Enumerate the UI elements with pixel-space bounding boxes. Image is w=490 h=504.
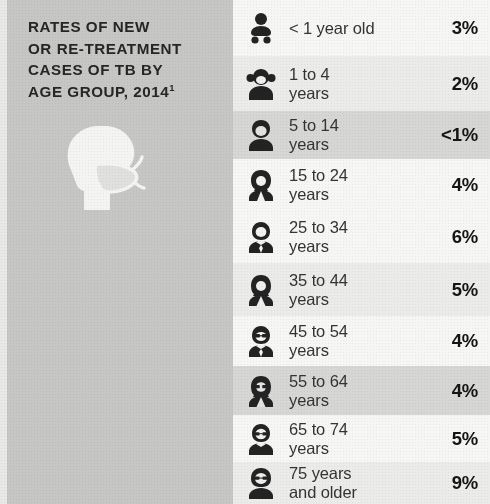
child-icon [240,115,282,155]
tb-age-group-infographic: RATES OF NEW OR RE-TREATMENT CASES OF TB… [0,0,490,504]
row-value: 4% [426,380,478,402]
table-row: < 1 year old 3% [233,0,490,56]
elderly-person-icon [240,463,282,503]
table-row: 55 to 64 years 4% [233,366,490,415]
page-title-line-3: CASES OF TB BY [28,61,163,78]
row-value: 2% [426,73,478,95]
row-label: 75 years and older [282,464,426,501]
row-label: 15 to 24 years [282,166,426,203]
row-label: < 1 year old [282,19,426,38]
man-suit-tie-icon [240,217,282,257]
man-glasses-icon [240,321,282,361]
teen-girl-icon [240,165,282,205]
table-row: 15 to 24 years 4% [233,159,490,211]
page-title: RATES OF NEW OR RE-TREATMENT CASES OF TB… [28,16,224,102]
table-row: 5 to 14 years <1% [233,111,490,159]
table-row: 35 to 44 years 5% [233,263,490,316]
row-value: 4% [426,174,478,196]
table-row: 25 to 34 years 6% [233,211,490,263]
table-row: 65 to 74 years 5% [233,415,490,462]
row-value: <1% [426,124,478,146]
table-row: 75 years and older 9% [233,462,490,504]
table-row: 1 to 4 years 2% [233,56,490,111]
table-row: 45 to 54 years 4% [233,316,490,366]
row-label: 45 to 54 years [282,322,426,359]
row-label: 35 to 44 years [282,271,426,308]
row-value: 4% [426,330,478,352]
left-edge-strip [0,0,7,504]
age-group-table: < 1 year old 3% 1 to 4 years 2% [233,0,490,504]
row-label: 1 to 4 years [282,65,426,102]
girl-pigtails-icon [240,64,282,104]
page-title-line-4: AGE GROUP, 2014 [28,83,169,100]
woman-older-icon [240,371,282,411]
row-label: 5 to 14 years [282,116,426,153]
page-title-line-1: RATES OF NEW [28,18,150,35]
row-label: 65 to 74 years [282,420,426,457]
row-value: 9% [426,472,478,494]
woman-icon [240,270,282,310]
page-title-line-2: OR RE-TREATMENT [28,40,182,57]
row-value: 5% [426,279,478,301]
row-value: 3% [426,17,478,39]
row-label: 55 to 64 years [282,372,426,409]
baby-icon [240,8,282,48]
head-with-face-mask-icon [58,122,154,214]
row-value: 5% [426,428,478,450]
elderly-man-icon [240,419,282,459]
row-label: 25 to 34 years [282,218,426,255]
footnote-marker: 1 [169,82,174,93]
left-title-panel: RATES OF NEW OR RE-TREATMENT CASES OF TB… [0,0,233,504]
row-value: 6% [426,226,478,248]
